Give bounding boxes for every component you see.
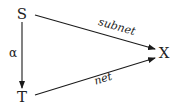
diagram-canvas: S T X α subnet net [0,0,175,105]
node-s: S [17,5,27,23]
label-alpha: α [9,46,17,60]
node-t: T [17,88,27,105]
node-x: X [159,44,170,62]
label-net: net [92,70,114,88]
edge-subnet [35,15,155,49]
